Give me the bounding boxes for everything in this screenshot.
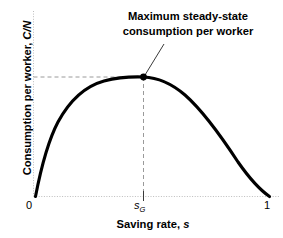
consumption-curve bbox=[36, 77, 270, 197]
annotation-leader-line bbox=[145, 44, 164, 75]
maximum-point-marker bbox=[140, 74, 147, 81]
x-axis-title-symbol: s bbox=[183, 218, 189, 230]
y-axis-title: Consumption per worker, C/N bbox=[18, 0, 36, 198]
y-axis-title-symbol: C/N bbox=[21, 21, 33, 40]
consumption-per-worker-chart: Maximum steady-state consumption per wor… bbox=[0, 0, 283, 238]
x-tick-label-zero: 0 bbox=[26, 199, 32, 211]
x-tick-label-sg-sub: G bbox=[140, 205, 146, 214]
x-tick-label-sg: sG bbox=[134, 199, 145, 214]
max-consumption-annotation: Maximum steady-state consumption per wor… bbox=[100, 9, 276, 38]
x-axis-title: Saving rate, s bbox=[33, 218, 273, 230]
y-axis-title-text: Consumption per worker, bbox=[21, 40, 33, 176]
x-axis-title-text: Saving rate, bbox=[117, 218, 184, 230]
x-tick-label-one: 1 bbox=[264, 199, 270, 211]
